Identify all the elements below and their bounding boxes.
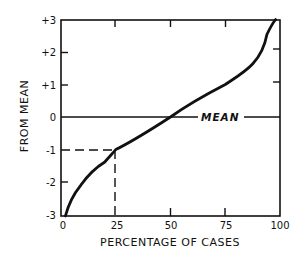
x-tick-label: 75	[220, 220, 233, 231]
x-tick-label: 0	[60, 220, 66, 231]
chart: MEAN +3 +2 +1 0 -1 -2 -3 0 25 50 75 100 …	[0, 0, 307, 262]
data-curve	[65, 20, 275, 217]
x-axis-title: PERCENTAGE OF CASES	[100, 236, 240, 249]
x-tick-label: 100	[270, 220, 289, 231]
x-tick-label: 25	[111, 220, 124, 231]
y-ticks-right	[273, 49, 280, 82]
y-tick-label: -3	[46, 210, 56, 221]
mean-label: MEAN	[201, 111, 240, 123]
y-tick-label: 0	[50, 112, 56, 123]
x-tick-labels: 0 25 50 75 100	[60, 220, 290, 231]
x-ticks-bottom	[171, 208, 226, 216]
y-tick-label: +1	[41, 80, 56, 91]
x-tick-label: 50	[165, 220, 178, 231]
y-tick-labels: +3 +2 +1 0 -1 -2 -3	[41, 15, 56, 221]
y-axis-title: FROM MEAN	[18, 80, 31, 152]
y-tick-label: -1	[46, 145, 56, 156]
x-ticks-top	[115, 20, 226, 27]
y-tick-label: +3	[41, 15, 56, 26]
y-tick-label: +2	[41, 47, 56, 58]
y-tick-label: -2	[46, 177, 56, 188]
